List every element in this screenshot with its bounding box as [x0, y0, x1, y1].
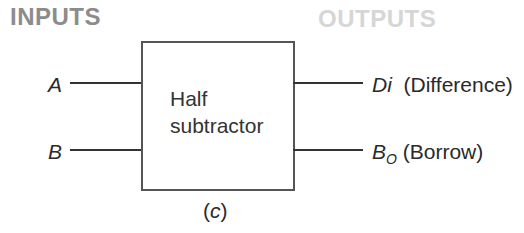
output-bo-line — [293, 149, 363, 151]
output-bo-label: BO (Borrow) — [372, 141, 483, 166]
output-di-description: (Difference) — [404, 73, 513, 96]
caption-close-paren: ) — [221, 199, 228, 222]
output-di-label: Di (Difference) — [372, 74, 513, 95]
caption-open-paren: ( — [203, 199, 210, 222]
output-bo-subscript: O — [386, 151, 397, 167]
output-di-line — [293, 82, 363, 84]
input-a-label: A — [48, 74, 62, 95]
input-a-line — [70, 82, 142, 84]
block-label: Half subtractor — [170, 85, 263, 139]
inputs-header: INPUTS — [10, 5, 101, 29]
caption-letter: c — [210, 199, 221, 222]
output-bo-description: (Borrow) — [403, 140, 484, 163]
outputs-header: OUTPUTS — [318, 7, 436, 31]
output-di-symbol: Di — [372, 73, 392, 96]
input-b-line — [70, 149, 142, 151]
figure-caption: (c) — [203, 200, 228, 221]
block-label-line1: Half — [170, 85, 263, 112]
output-bo-symbol: B — [372, 140, 386, 163]
block-label-line2: subtractor — [170, 112, 263, 139]
input-b-label: B — [48, 141, 62, 162]
